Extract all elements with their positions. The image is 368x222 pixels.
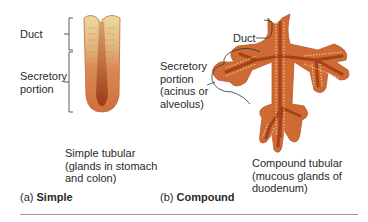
simple-duct-label: Duct: [20, 28, 43, 41]
part-a-label: (a) Simple: [20, 191, 73, 203]
simple-secretory-label: Secretory portion: [20, 70, 67, 95]
simple-caption: Simple tubular (glands in stomach and co…: [65, 147, 157, 185]
simple-duct-bracket: [64, 18, 73, 50]
part-b-label: (b) Compound: [160, 191, 235, 203]
compound-secretory-label: Secretory portion (acinus or alveolus): [160, 60, 208, 110]
compound-duct-label: Duct: [233, 32, 256, 45]
bottom-divider: [20, 214, 358, 215]
compound-caption: Compound tubular (mucous glands of duode…: [252, 157, 343, 195]
simple-tubular-gland: [84, 15, 120, 112]
